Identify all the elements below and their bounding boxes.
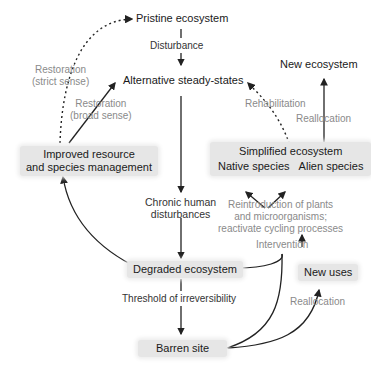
label-chronic-disturbances: Chronic human disturbances [145, 196, 216, 220]
node-new-ecosystem: New ecosystem [280, 58, 358, 71]
label-restoration-broad: Restoration (broad sense) [70, 98, 132, 122]
node-simplified-title: Simplified ecosystem [218, 145, 363, 158]
label-restoration-broad-line2: (broad sense) [70, 110, 132, 122]
label-reallocation-top: Reallocation [296, 113, 351, 125]
node-degraded-ecosystem: Degraded ecosystem [127, 261, 243, 278]
node-alien-species: Alien species [299, 160, 364, 172]
label-reintro-line1: Reintroduction of plants [218, 199, 343, 211]
label-chronic-line2: disturbances [145, 208, 216, 220]
label-reallocation-bottom: Reallocation [290, 296, 345, 308]
label-restoration-strict-line2: (strict sense) [32, 76, 89, 88]
label-restoration-strict-line1: Restoration [32, 64, 89, 76]
node-simplified-ecosystem: Simplified ecosystem Native species Alie… [210, 142, 371, 176]
node-new-uses: New uses [298, 264, 358, 281]
node-improved-management: Improved resource and species management [20, 146, 158, 176]
label-rehabilitation: Rehabilitation [245, 98, 306, 110]
label-threshold: Threshold of irreversibility [122, 293, 236, 305]
label-reintro-line3: reactivate cycling processes [218, 223, 343, 235]
label-reintroduction: Reintroduction of plants and microorgani… [218, 199, 343, 235]
label-intervention: Intervention [256, 239, 308, 251]
label-disturbance: Disturbance [150, 40, 203, 52]
label-restoration-strict: Restoration (strict sense) [32, 64, 89, 88]
node-barren-site: Barren site [138, 340, 227, 357]
node-native-species: Native species [218, 160, 290, 172]
node-simplified-species: Native species Alien species [218, 160, 363, 173]
label-chronic-line1: Chronic human [145, 196, 216, 208]
node-alternative-steady-states: Alternative steady-states [123, 74, 243, 87]
node-improved-line1: Improved resource [26, 148, 152, 161]
node-pristine-ecosystem: Pristine ecosystem [136, 12, 228, 25]
node-improved-line2: and species management [26, 161, 152, 174]
label-reintro-line2: and microorganisms; [218, 211, 343, 223]
label-restoration-broad-line1: Restoration [70, 98, 132, 110]
